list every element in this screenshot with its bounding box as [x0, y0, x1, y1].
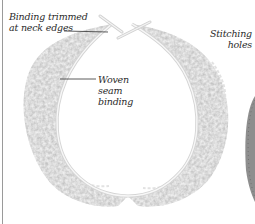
label-woven-seam-binding: Woven seam binding [98, 74, 133, 107]
diagram-canvas: Binding trimmed at neck edges Woven seam… [0, 0, 255, 224]
label-binding-trimmed: Binding trimmed at neck edges [9, 11, 88, 33]
stitching-holes-panel [245, 96, 255, 202]
label-stitching-holes: Stitching holes [192, 28, 252, 50]
